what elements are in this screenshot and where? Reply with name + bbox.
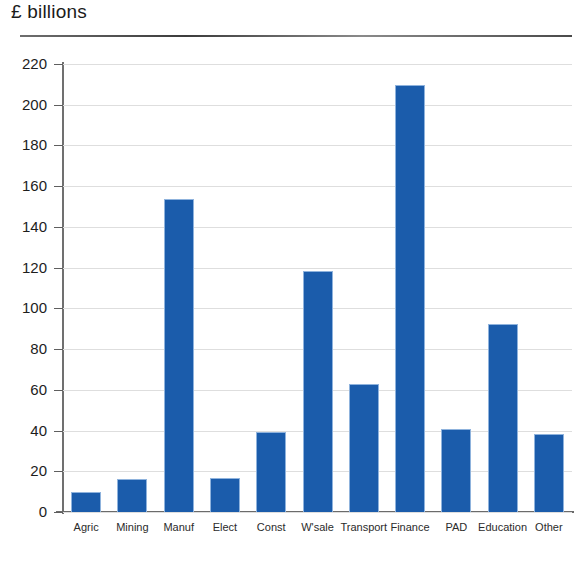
bar-education[interactable] <box>488 324 518 512</box>
y-axis-tick <box>54 105 63 106</box>
chart-title: £ billions <box>11 1 87 23</box>
gridline <box>63 145 572 146</box>
bar-elect[interactable] <box>210 478 240 512</box>
gridline <box>63 105 572 106</box>
bar-other[interactable] <box>534 434 564 512</box>
gridline <box>63 64 572 65</box>
y-axis-tick <box>54 349 63 350</box>
y-axis-tick-label: 80 <box>7 340 47 357</box>
y-axis-tick <box>54 471 63 472</box>
y-axis-tick-label: 160 <box>7 177 47 194</box>
y-axis-tick <box>54 308 63 309</box>
y-axis-tick <box>54 390 63 391</box>
gridline <box>63 227 572 228</box>
y-axis-tick-label: 180 <box>7 136 47 153</box>
y-axis-tick <box>54 431 63 432</box>
y-axis-tick-label: 120 <box>7 259 47 276</box>
y-axis-tick-label: 220 <box>7 55 47 72</box>
bar-transport[interactable] <box>349 384 379 512</box>
y-axis-tick-label: 40 <box>7 422 47 439</box>
y-axis-tick <box>54 227 63 228</box>
y-axis-tick-label: 20 <box>7 462 47 479</box>
bar-mining[interactable] <box>117 479 147 512</box>
header-divider <box>20 35 572 37</box>
y-axis-tick-label: 60 <box>7 381 47 398</box>
x-axis-tick-label: Other <box>504 521 583 533</box>
bar-w-sale[interactable] <box>303 271 333 512</box>
y-axis-tick <box>54 268 63 269</box>
y-axis-tick-label: 200 <box>7 96 47 113</box>
bar-pad[interactable] <box>441 429 471 512</box>
y-axis-tick-label: 100 <box>7 299 47 316</box>
y-axis-tick <box>54 512 63 513</box>
y-axis-tick <box>54 186 63 187</box>
bar-agric[interactable] <box>71 492 101 512</box>
bar-const[interactable] <box>256 432 286 512</box>
bar-manuf[interactable] <box>164 199 194 512</box>
plot-area <box>63 64 572 512</box>
y-axis-tick-label: 140 <box>7 218 47 235</box>
gridline <box>63 186 572 187</box>
y-axis-tick-label: 0 <box>7 503 47 520</box>
bar-finance[interactable] <box>395 85 425 512</box>
y-axis-tick <box>54 145 63 146</box>
chart-figure: £ billions 02040608010012014016018020022… <box>0 0 583 562</box>
y-axis-tick <box>54 64 63 65</box>
gridline <box>63 512 572 513</box>
gridline <box>63 268 572 269</box>
